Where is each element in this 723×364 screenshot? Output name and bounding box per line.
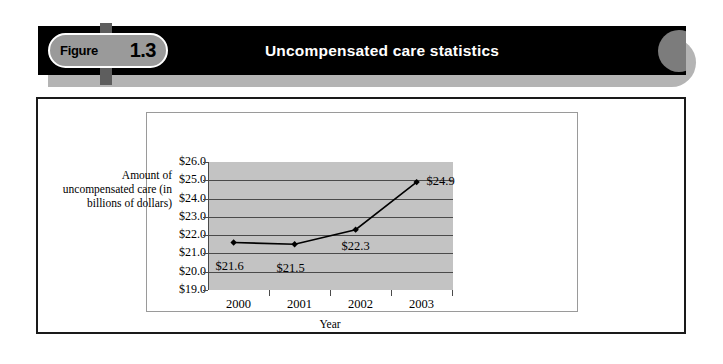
gridline <box>209 235 453 236</box>
x-axis-tick-label: 2001 <box>270 297 330 312</box>
x-axis-title: Year <box>208 318 452 330</box>
figure-number-badge: Figure 1.3 <box>48 33 168 68</box>
data-point-label: $21.5 <box>277 261 305 276</box>
y-axis-tick-mark <box>203 162 208 163</box>
gridline <box>209 217 453 218</box>
plot-area <box>208 162 453 290</box>
y-axis-tick-label: $21.0 <box>152 246 206 258</box>
data-point-label: $24.9 <box>427 174 455 189</box>
y-axis-tick-mark <box>203 235 208 236</box>
y-axis-tick-mark <box>203 180 208 181</box>
y-axis-tick-mark <box>203 253 208 254</box>
figure-badge-word: Figure <box>60 35 98 66</box>
figure-header-banner: Uncompensated care statistics Figure 1.3 <box>38 26 686 75</box>
data-point-label: $22.3 <box>342 239 370 254</box>
x-axis-tick-label: 2003 <box>392 297 452 312</box>
x-axis-tick-label: 2000 <box>209 297 269 312</box>
gridline <box>209 272 453 273</box>
y-axis-tick-label: $22.0 <box>152 228 206 240</box>
gridline <box>209 253 453 254</box>
y-axis-tick-mark <box>203 272 208 273</box>
y-axis-tick-mark <box>203 199 208 200</box>
y-axis-tick-label: $24.0 <box>152 192 206 204</box>
gridline <box>209 180 453 181</box>
y-axis-tick-mark <box>203 217 208 218</box>
y-axis-tick-label: $19.0 <box>152 283 206 295</box>
y-axis-tick-label: $20.0 <box>152 265 206 277</box>
x-axis-tick-mark <box>391 290 392 296</box>
y-axis-tick-mark <box>203 290 208 291</box>
y-axis-tick-label: $23.0 <box>152 210 206 222</box>
gridline <box>209 199 453 200</box>
x-axis-tick-mark <box>269 290 270 296</box>
x-axis-tick-label: 2002 <box>331 297 391 312</box>
x-axis-tick-mark <box>330 290 331 296</box>
data-point-label: $21.6 <box>216 259 244 274</box>
y-axis-tick-label: $26.0 <box>152 155 206 167</box>
y-axis-tick-label: $25.0 <box>152 173 206 185</box>
figure-badge-number: 1.3 <box>130 35 156 66</box>
x-axis-tick-mark <box>452 290 453 296</box>
